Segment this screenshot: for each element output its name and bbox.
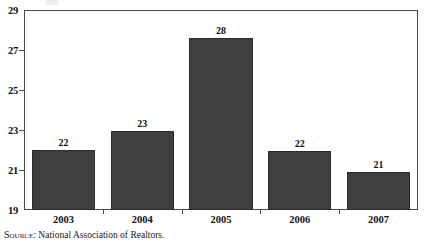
x-axis-tick-label: 2005 bbox=[211, 214, 232, 225]
source-note: Source: National Association of Realtors… bbox=[4, 229, 164, 240]
x-axis-tick-mark bbox=[182, 210, 183, 214]
x-axis-tick-mark bbox=[339, 210, 340, 214]
bar-2003: 22 bbox=[32, 150, 95, 210]
y-axis: 192123252729 bbox=[0, 0, 24, 244]
bar-2006: 22 bbox=[268, 151, 331, 210]
x-axis-tick-label: 2003 bbox=[53, 214, 74, 225]
source-prefix: Source bbox=[4, 229, 33, 240]
bars-layer: 2223282221 bbox=[24, 10, 418, 210]
bar-2004: 23 bbox=[111, 131, 174, 210]
source-separator: : bbox=[33, 230, 36, 240]
bar-2005: 28 bbox=[189, 38, 252, 210]
source-text: National Association of Realtors. bbox=[38, 230, 164, 240]
x-axis-tick-mark bbox=[260, 210, 261, 214]
y-axis-tick-label: 21 bbox=[8, 165, 18, 176]
bar-chart-figure: 192123252729 2223282221 Source: National… bbox=[0, 0, 430, 244]
y-axis-tick-label: 29 bbox=[8, 5, 18, 16]
y-axis-tick-label: 25 bbox=[8, 85, 18, 96]
y-axis-tick-label: 23 bbox=[8, 125, 18, 136]
scan-artifact bbox=[45, 0, 59, 5]
bar-value-label: 22 bbox=[295, 138, 305, 149]
x-axis-tick-mark bbox=[103, 210, 104, 214]
y-axis-tick-label: 19 bbox=[8, 205, 18, 216]
bar-value-label: 28 bbox=[216, 25, 226, 36]
bar-value-label: 23 bbox=[137, 118, 147, 129]
y-axis-tick-label: 27 bbox=[8, 45, 18, 56]
bar-2007: 21 bbox=[347, 172, 410, 210]
bar-value-label: 21 bbox=[374, 159, 384, 170]
x-axis-tick-label: 2004 bbox=[132, 214, 153, 225]
x-axis-tick-label: 2006 bbox=[289, 214, 310, 225]
bar-value-label: 22 bbox=[58, 137, 68, 148]
x-axis-tick-label: 2007 bbox=[368, 214, 389, 225]
